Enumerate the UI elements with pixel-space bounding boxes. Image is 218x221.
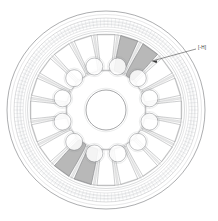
bolt-hole (66, 70, 83, 87)
bolt-hole (141, 90, 158, 107)
wheel-mesh-drawing (0, 0, 218, 221)
bolt-hole (86, 145, 103, 162)
bolt-hole (66, 133, 83, 150)
figure-canvas: [-H] (0, 0, 218, 221)
bolt-hole (86, 58, 103, 75)
bolt-hole (109, 145, 126, 162)
bolt-hole (109, 58, 126, 75)
annotation-label: [-H] (198, 45, 206, 50)
bolt-hole (129, 70, 146, 87)
bolt-hole (129, 133, 146, 150)
bolt-hole (141, 113, 158, 130)
bolt-hole (54, 90, 71, 107)
center-bore (86, 90, 126, 130)
bolt-hole (54, 113, 71, 130)
